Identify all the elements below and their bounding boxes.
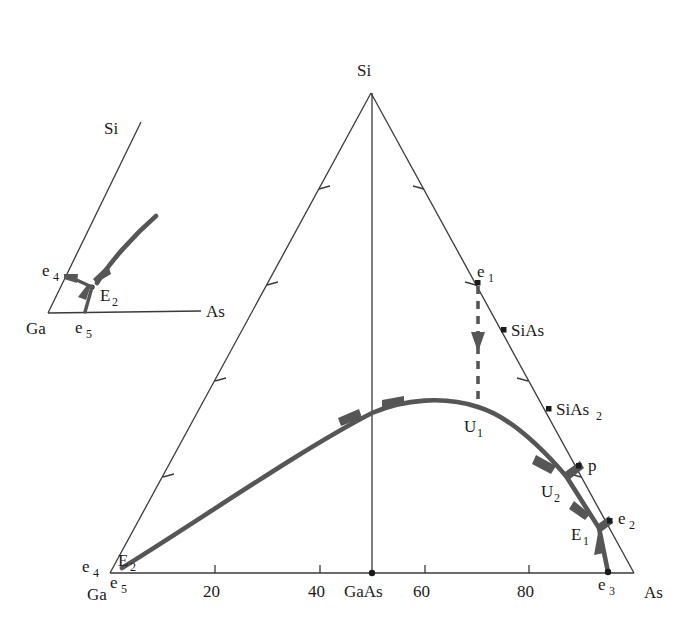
label-e3-sub: 3 [609, 584, 615, 598]
point-marker-e3 [605, 569, 611, 575]
inset-label-Ga: Ga [26, 319, 46, 338]
label-e2: e 2 [618, 509, 635, 532]
label-SiAs-base: SiAs [511, 321, 544, 340]
triangle-edge-si-as [371, 93, 634, 573]
label-SiAs: SiAs [511, 321, 544, 340]
label-U1-sub: 1 [477, 426, 483, 440]
tick-label-20-text: 20 [203, 582, 220, 601]
label-Si-apex: Si [357, 61, 371, 80]
label-E1-sub: 1 [583, 534, 589, 548]
diagram-canvas: Si As Ga e 4 e 5 E 2 [0, 0, 682, 640]
label-e1-sub: 1 [488, 271, 494, 285]
label-SiAs2-base: SiAs [556, 400, 589, 419]
boundary-curve-E2-to-U1 [122, 400, 478, 568]
inset-label-As-text: As [206, 302, 225, 321]
label-e2-sub: 2 [629, 518, 635, 532]
label-Si-apex-text: Si [357, 61, 371, 80]
inset-label-E2-base: E [100, 286, 110, 305]
inset-label-e4-sub: 4 [53, 270, 59, 284]
inset-label-e4: e 4 [42, 261, 59, 284]
point-marker-SiAs [501, 327, 507, 333]
label-e4-main-base: e [82, 557, 90, 576]
label-SiAs2: SiAs 2 [556, 400, 602, 423]
label-E2-main-sub: 2 [130, 560, 136, 574]
label-E1-base: E [571, 525, 581, 544]
inset-arrow-to-e4-icon [64, 274, 78, 283]
dashed-arrow-down-icon [471, 332, 485, 352]
label-p-base: p [588, 456, 597, 475]
label-e5-main-sub: 5 [121, 582, 127, 596]
label-U2: U 2 [541, 482, 560, 505]
inset-label-Ga-text: Ga [26, 319, 46, 338]
curve-arrow-toward-U1-icon [382, 396, 404, 411]
label-Ga-corner: Ga [87, 585, 107, 604]
point-marker-p [576, 463, 582, 469]
ternary-phase-diagram-figure: Si As Ga e 4 e 5 E 2 [0, 0, 682, 640]
point-marker-e2 [607, 518, 613, 524]
label-e4-main: e 4 [82, 557, 99, 580]
label-GaAs-axis: GaAs [344, 582, 383, 601]
inset-label-As: As [206, 302, 225, 321]
label-U1: U 1 [464, 417, 483, 440]
tick-label-80-text: 80 [517, 582, 534, 601]
label-E2-main-base: E [118, 551, 128, 570]
tick-label-60: 60 [413, 582, 430, 601]
label-e3-base: e [598, 575, 606, 594]
inset-label-Si-text: Si [104, 119, 118, 138]
gaas-point-marker [369, 570, 375, 576]
inset-label-e5: e 5 [75, 318, 92, 341]
label-E2-main: E 2 [118, 551, 136, 574]
label-U2-sub: 2 [554, 491, 560, 505]
label-As-corner: As [644, 583, 663, 602]
label-p: p [588, 456, 597, 475]
tick-label-20: 20 [203, 582, 220, 601]
label-e1-base: e [477, 262, 485, 281]
boundary-curve-U2-to-E1 [566, 476, 599, 528]
label-E1: E 1 [571, 525, 589, 548]
label-e5-main: e 5 [110, 573, 127, 596]
inset-label-Si: Si [104, 119, 118, 138]
inset-label-E2: E 2 [100, 286, 118, 309]
inset-curve-arrowhead-icon [93, 265, 111, 283]
inset-label-e5-base: e [75, 318, 83, 337]
inset-label-e5-sub: 5 [86, 327, 92, 341]
label-U2-base: U [541, 482, 553, 501]
right-edge-tick-3 [517, 378, 528, 381]
left-edge-tick-3 [215, 378, 226, 381]
label-As-corner-text: As [644, 583, 663, 602]
tick-label-60-text: 60 [413, 582, 430, 601]
tick-label-40: 40 [308, 582, 325, 601]
label-U1-base: U [464, 417, 476, 436]
left-edge-tick-4 [163, 474, 174, 477]
inset-group: Si As Ga e 4 e 5 E 2 [26, 119, 225, 341]
inset-label-E2-sub: 2 [112, 295, 118, 309]
label-GaAs-axis-text: GaAs [344, 582, 383, 601]
inset-label-e4-base: e [42, 261, 50, 280]
label-e4-main-sub: 4 [93, 566, 99, 580]
label-Ga-corner-text: Ga [87, 585, 107, 604]
tick-label-80: 80 [517, 582, 534, 601]
label-e2-base: e [618, 509, 626, 528]
label-SiAs2-sub: 2 [596, 409, 602, 423]
inset-edge-ga-as [48, 311, 201, 313]
point-marker-SiAs2 [546, 406, 552, 412]
label-e3: e 3 [598, 575, 615, 598]
main-triangle-group: Si e 1 SiAs SiAs 2 U 1 p U 2 e 2 E [82, 61, 663, 604]
triangle-edge-si-ga [110, 93, 371, 573]
tick-label-40-text: 40 [308, 582, 325, 601]
label-e5-main-base: e [110, 573, 118, 592]
inset-edge-ga-si [48, 122, 141, 313]
